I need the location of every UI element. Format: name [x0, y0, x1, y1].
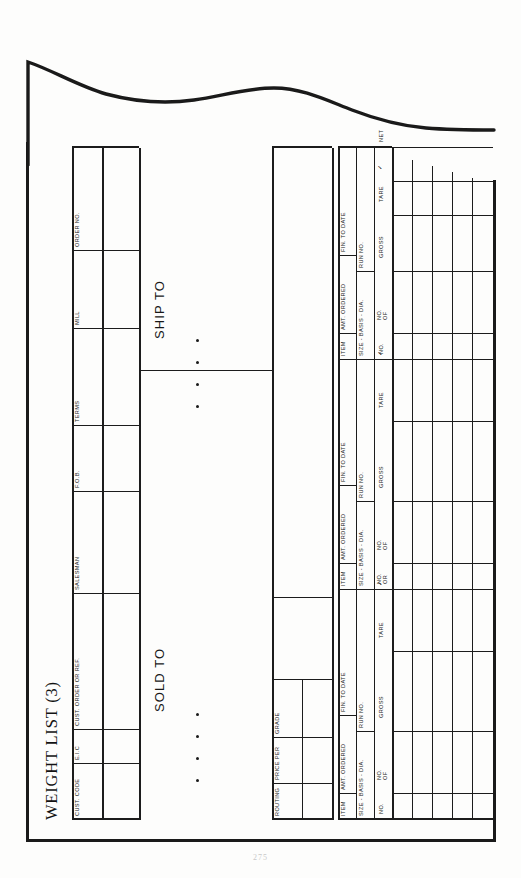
secondary-divider-3	[272, 679, 332, 680]
sold-to-guide-dots	[196, 713, 199, 782]
secondary-strip-mid-rule	[302, 680, 303, 820]
secondary-divider-1	[272, 783, 332, 784]
grid-col-rule-2	[392, 731, 493, 732]
item-band-a-div-3	[338, 589, 392, 590]
item-band-c-rule-1	[356, 148, 357, 360]
scanned-page: WEIGHT LIST (3) CUST. CODE E.I.C CUST. O…	[0, 0, 521, 878]
weight-col-gross-b: GROSS	[379, 466, 385, 488]
grid-row-rule-2	[432, 166, 433, 820]
field-label-order-no: ORDER NO.	[75, 212, 81, 247]
grid-row-rule-3	[452, 172, 453, 820]
weight-col-net-c: NET	[379, 130, 385, 142]
item-band-a-div-1	[338, 793, 356, 794]
item-band-b-rule-1	[356, 360, 357, 590]
header-strip-left-rule	[72, 818, 139, 820]
item-band-b-div-4	[356, 501, 374, 502]
rotated-form-wrapper: WEIGHT LIST (3) CUST. CODE E.I.C CUST. O…	[26, 36, 496, 842]
item-band-b-div-2	[338, 485, 356, 486]
weight-col-no-a: NO.	[378, 803, 384, 814]
item-band-a-left	[338, 818, 392, 820]
field-label-routing: ROUTING	[275, 788, 281, 816]
header-divider-7	[72, 250, 139, 251]
secondary-strip-bottom-rule	[332, 148, 334, 820]
field-label-grade: GRADE	[275, 712, 281, 734]
grid-col-rule-10	[392, 271, 493, 272]
grid-row-rule-1	[412, 160, 413, 820]
item-band-a-rule-2	[374, 148, 375, 820]
item-label-fin-to-date-c: FIN. TO DATE	[341, 212, 347, 252]
weight-col-no-of-b: NO. OF	[376, 539, 389, 550]
item-band-a-div-2	[338, 715, 356, 716]
grid-col-rule-13	[392, 147, 493, 148]
item-label-item-b: ITEM	[341, 571, 347, 586]
weight-col-no-of-c: NO. OF	[376, 309, 389, 320]
item-band-a-rule-1	[356, 590, 357, 820]
header-strip-bottom-rule	[139, 148, 141, 820]
ship-to-guide-dots	[196, 339, 199, 408]
form-border-left	[26, 839, 496, 842]
item-band-a-top-rule	[338, 148, 340, 820]
item-label-amt-ordered-a: AMT. ORDERED	[341, 744, 347, 790]
weight-col-no-of-a: NO. OF	[376, 769, 389, 780]
header-divider-2	[72, 729, 139, 730]
header-strip-right-rule	[72, 146, 139, 148]
weight-col-check-c: ✓	[378, 165, 384, 170]
header-divider-1	[72, 763, 139, 764]
form-border-bottom	[493, 180, 496, 842]
grid-col-rule-4	[392, 589, 493, 590]
field-label-eic: E.I.C	[75, 746, 81, 760]
item-label-amt-ordered-c: AMT. ORDERED	[341, 284, 347, 330]
item-label-item-c: ITEM	[341, 341, 347, 356]
page-number: 275	[0, 853, 521, 862]
item-band-c-right	[338, 146, 392, 148]
address-box-split-rule	[139, 370, 272, 371]
weight-col-gross-a: GROSS	[379, 696, 385, 718]
weight-col-gross-c: GROSS	[379, 236, 385, 258]
weight-col-no-or-b: NO. OR	[376, 573, 389, 584]
form-border-top	[26, 142, 29, 842]
item-label-fin-to-date-b: FIN. TO DATE	[341, 442, 347, 482]
secondary-strip-left-rule	[272, 818, 332, 820]
grid-col-rule-1	[392, 793, 493, 794]
item-label-amt-ordered-b: AMT. ORDERED	[341, 514, 347, 560]
grid-col-rule-left	[392, 818, 493, 820]
item-band-b-div-3	[338, 359, 392, 360]
grid-row-rule-4	[472, 178, 473, 820]
field-label-mill: MILL	[75, 311, 81, 325]
weight-list-form: WEIGHT LIST (3) CUST. CODE E.I.C CUST. O…	[26, 36, 496, 842]
grid-col-rule-7	[392, 421, 493, 422]
header-divider-5	[72, 425, 139, 426]
item-band-a-rule-3	[392, 148, 394, 820]
item-label-run-no-c: RUN NO.	[359, 242, 365, 268]
field-label-cust-order-or-ref: CUST. ORDER OR REF.	[75, 658, 81, 726]
field-label-salesman: SALESMAN	[75, 557, 81, 590]
item-label-item-a: ITEM	[341, 801, 347, 816]
page-title: WEIGHT LIST (3)	[42, 681, 62, 820]
header-strip-mid-rule	[102, 148, 104, 820]
header-divider-6	[72, 328, 139, 329]
header-divider-4	[72, 491, 139, 492]
secondary-strip-right-rule	[272, 146, 332, 148]
item-band-a-div-4	[356, 731, 374, 732]
grid-col-rule-12	[392, 181, 493, 182]
item-band-c-div-1	[338, 333, 356, 334]
field-label-terms: TERMS	[75, 401, 81, 422]
header-divider-3	[72, 593, 139, 594]
item-label-size-basis-dia-c: SIZE - BASIS - DIA.	[359, 300, 365, 356]
item-label-size-basis-dia-a: SIZE - BASIS - DIA.	[359, 760, 365, 816]
header-strip-top-rule	[72, 148, 74, 820]
grid-col-rule-3	[392, 651, 493, 652]
weight-col-tare-b: TARE	[379, 392, 385, 408]
grid-col-rule-9	[392, 333, 493, 334]
item-label-run-no-a: RUN NO.	[359, 702, 365, 728]
weight-col-tare-c: TARE	[379, 186, 385, 202]
item-band-b-div-1	[338, 563, 356, 564]
weight-col-no-c: NO.	[378, 343, 384, 354]
item-label-fin-to-date-a: FIN. TO DATE	[341, 672, 347, 712]
item-label-run-no-b: RUN NO.	[359, 472, 365, 498]
item-label-size-basis-dia-b: SIZE - BASIS - DIA.	[359, 530, 365, 586]
grid-col-rule-6	[392, 501, 493, 502]
address-label-ship-to: SHIP TO	[152, 280, 167, 339]
address-label-sold-to: SOLD TO	[152, 648, 167, 712]
field-label-fob: F.O.B.	[75, 470, 81, 488]
